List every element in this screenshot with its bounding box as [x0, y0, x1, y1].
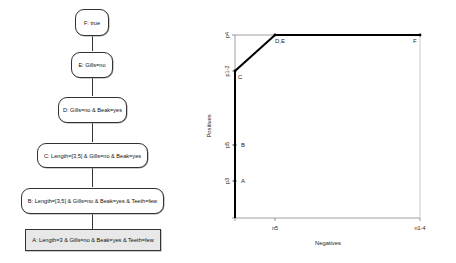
point-label-c: C — [238, 74, 243, 80]
point-label-f: F — [413, 38, 417, 44]
x-axis-title: Negatives — [315, 240, 341, 246]
point-label-a: A — [241, 178, 245, 184]
point-label-de: D,E — [275, 38, 285, 44]
point-f — [419, 34, 422, 37]
point-de — [274, 34, 277, 37]
y-tick-label-p3: p3 — [224, 178, 230, 184]
point-a — [234, 180, 237, 183]
point-label-b: B — [241, 142, 245, 148]
coverage-chart: p4 p1-2 p5 p3 n5 n1-4 Negatives Positive… — [0, 0, 456, 263]
y-axis-title: Positives — [206, 114, 212, 137]
y-tick-label-p4: p4 — [224, 32, 230, 38]
x-tick-label-n5: n5 — [272, 225, 278, 231]
x-tick-label-n1-4: n1-4 — [414, 225, 425, 231]
y-tick-label-p1-2: p1-2 — [224, 65, 230, 76]
coverage-path — [235, 35, 420, 218]
point-b — [234, 144, 237, 147]
point-c — [234, 70, 237, 73]
y-tick-label-p5: p5 — [224, 142, 230, 148]
